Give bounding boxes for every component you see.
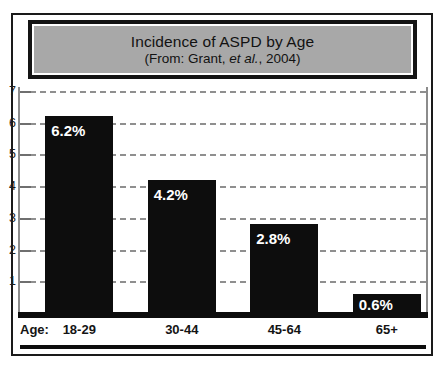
y-tick-mark	[20, 91, 31, 93]
y-tick-label: 1	[3, 274, 16, 288]
y-tick-label: 3	[3, 211, 16, 225]
chart-figure: Incidence of ASPD by Age (From: Grant, e…	[0, 0, 448, 369]
category-label: 45-64	[268, 322, 301, 337]
y-tick-mark	[20, 250, 31, 252]
y-tick-label: 2	[3, 243, 16, 257]
chart-subtitle: (From: Grant, et al., 2004)	[144, 51, 300, 67]
chart-title: Incidence of ASPD by Age	[131, 33, 314, 50]
bar-value-label: 2.8%	[256, 230, 290, 247]
bar-value-label: 6.2%	[51, 122, 85, 139]
y-tick-label: 4	[3, 179, 16, 193]
y-tick-label: 7	[3, 84, 16, 98]
y-tick-label: 6	[3, 116, 16, 130]
right-axis-line	[426, 87, 428, 313]
bar-value-label: 0.6%	[359, 296, 393, 313]
y-tick-label: 5	[3, 147, 16, 161]
y-tick-mark	[20, 186, 31, 188]
chart-title-plaque: Incidence of ASPD by Age (From: Grant, e…	[28, 20, 417, 79]
bar	[45, 116, 113, 313]
bottom-rule	[20, 345, 426, 349]
subtitle-prefix: (From: Grant,	[144, 51, 229, 66]
category-axis-row: Age: 18-2930-4445-6465+	[18, 320, 428, 344]
y-tick-mark	[20, 218, 31, 220]
y-tick-mark	[20, 281, 31, 283]
x-axis-label: Age:	[20, 322, 49, 337]
category-label: 65+	[376, 322, 398, 337]
y-tick-mark	[20, 154, 31, 156]
category-label: 18-29	[63, 322, 96, 337]
bar-value-label: 4.2%	[154, 186, 188, 203]
x-axis-baseline	[18, 312, 428, 318]
subtitle-suffix: , 2004)	[259, 51, 301, 66]
gridline	[20, 91, 426, 93]
subtitle-italic: et al.	[229, 51, 258, 66]
category-label: 30-44	[165, 322, 198, 337]
y-tick-mark	[20, 123, 31, 125]
y-axis-line	[18, 87, 20, 313]
plot-area: 1234567 6.2%4.2%2.8%0.6%	[18, 91, 428, 313]
